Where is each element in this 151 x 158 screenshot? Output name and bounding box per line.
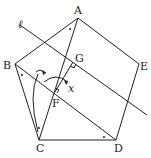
geometry-diagram: A B C D E F G x ℓ	[0, 0, 151, 158]
angle-dot-D	[103, 136, 105, 138]
segment-AC	[39, 18, 78, 140]
label-G: G	[75, 52, 84, 65]
angle-dot-A	[69, 28, 71, 30]
pentagon-ABCDE	[15, 18, 139, 140]
label-l: ℓ	[18, 18, 23, 31]
label-x: x	[68, 82, 75, 95]
label-D: D	[114, 142, 123, 155]
label-C: C	[36, 142, 44, 155]
angle-arc-x	[44, 77, 68, 82]
label-E: E	[140, 60, 148, 73]
angle-dot-C	[38, 127, 40, 129]
angle-dot-B	[21, 74, 23, 76]
label-B: B	[3, 59, 11, 72]
label-F: F	[52, 97, 60, 110]
label-A: A	[73, 4, 83, 17]
